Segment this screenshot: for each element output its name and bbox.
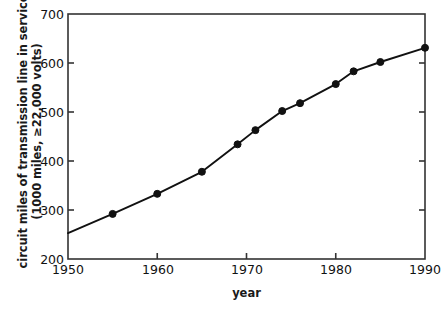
chart-figure: circuit miles of transmission line in se… xyxy=(0,0,447,311)
data-series-transmission-miles xyxy=(68,44,429,233)
axis-ticks xyxy=(68,63,425,259)
plot-area xyxy=(0,0,447,311)
figure-caption xyxy=(0,303,447,311)
x-axis-label: year xyxy=(68,286,425,300)
